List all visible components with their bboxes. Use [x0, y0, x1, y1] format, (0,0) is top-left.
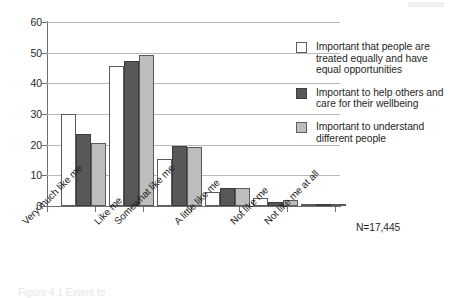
bar-not-like-me-at-all-series-3 [331, 204, 346, 206]
bar-a-little-like-me-series-2 [220, 188, 235, 206]
legend-swatch-icon-series-2 [296, 88, 307, 99]
legend-entry-equal-opportunities[interactable]: Important that people are treated equall… [296, 41, 454, 76]
bar-not-like-me-at-all-series-1 [301, 204, 316, 206]
y-tick-label-10: 10 [12, 170, 42, 180]
x-tick-mark-1 [95, 207, 96, 212]
y-tick-label-20: 20 [12, 140, 42, 150]
x-tick-mark-2 [143, 207, 144, 212]
bar-like-me-series-1 [109, 66, 124, 206]
gridline-60 [47, 22, 340, 23]
figure-caption-cutoff: Figure 4.1 Extent to [18, 288, 105, 298]
bar-not-like-me-at-all-series-2 [316, 204, 331, 206]
y-tick-label-50: 50 [12, 48, 42, 58]
bar-very-much-like-me-series-1 [61, 114, 76, 206]
legend-label-series-2: Important to help others and care for th… [316, 87, 454, 110]
page-edge-artifact [408, 2, 444, 7]
legend-entry-help-others[interactable]: Important to help others and care for th… [296, 87, 454, 110]
y-tick-label-40: 40 [12, 78, 42, 88]
chart-legend: Important that people are treated equall… [296, 41, 454, 155]
bar-like-me-series-2 [124, 61, 139, 206]
y-tick-label-60: 60 [12, 17, 42, 27]
y-tick-label-30: 30 [12, 109, 42, 119]
legend-label-series-3: Important to understand different people [316, 121, 454, 144]
bar-chart-figure: 60 50 40 30 20 10 0 [0, 0, 454, 298]
legend-swatch-icon-series-3 [296, 122, 307, 133]
legend-swatch-icon-series-1 [296, 42, 307, 53]
legend-label-series-1: Important that people are treated equall… [316, 41, 454, 76]
x-tick-mark-6 [335, 207, 336, 212]
x-tick-mark-0 [47, 207, 48, 212]
bar-very-much-like-me-series-3 [91, 143, 106, 206]
bar-somewhat-like-me-series-2 [172, 146, 187, 206]
legend-entry-understand-different-people[interactable]: Important to understand different people [296, 121, 454, 144]
sample-size-annotation: N=17,445 [356, 222, 400, 233]
